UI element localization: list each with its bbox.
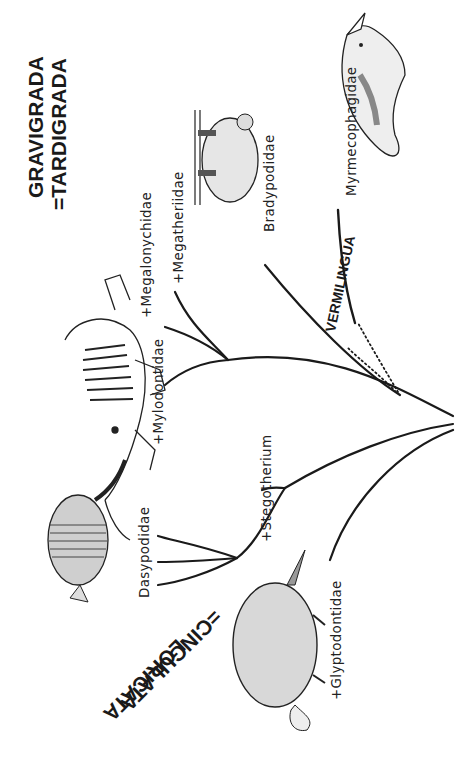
- group-label-tardigrada: =TARDIGRADA: [48, 58, 69, 210]
- phylogeny-diagram: Myrmecophagidae Bradypodidae +Megatherii…: [0, 0, 468, 780]
- illustrations: [0, 0, 468, 780]
- group-label-gravigrada: GRAVIGRADA: [25, 56, 46, 198]
- armadillo-illustration: [48, 460, 125, 602]
- taxon-label-stegotherium: +Stegotherium: [258, 435, 274, 542]
- taxon-label-myrmecophagidae: Myrmecophagidae: [343, 67, 359, 196]
- taxon-label-megatheriidae: +Megatheriidae: [170, 171, 186, 284]
- taxon-label-megalonychidae: +Megalonychidae: [138, 192, 154, 318]
- taxon-label-bradypodidae: Bradypodidae: [261, 134, 277, 232]
- glyptodont-illustration: [233, 550, 325, 731]
- tree-sloth-illustration: [195, 110, 258, 205]
- taxon-label-mylodontidae: +Mylodontidae: [150, 339, 166, 445]
- taxon-label-dasypodidae: Dasypodidae: [136, 507, 152, 598]
- taxon-label-glyptodontidae: +Glyptodontidae: [328, 580, 344, 700]
